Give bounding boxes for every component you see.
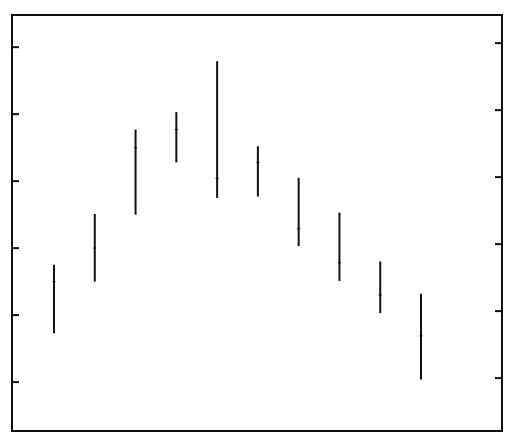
range-bars <box>53 61 423 379</box>
range-bar <box>175 112 178 162</box>
range-bar <box>216 61 219 198</box>
range-bar <box>53 265 56 333</box>
range-chart <box>0 0 512 441</box>
plot-frame <box>12 15 502 431</box>
plot-border <box>12 15 502 431</box>
range-bar <box>420 294 423 380</box>
range-bar <box>134 130 137 215</box>
range-bar <box>379 262 382 314</box>
range-bar <box>93 214 96 282</box>
y-axis-ticks <box>12 43 502 382</box>
range-bar <box>256 146 259 196</box>
range-bar <box>297 178 300 246</box>
range-bar <box>338 213 341 281</box>
